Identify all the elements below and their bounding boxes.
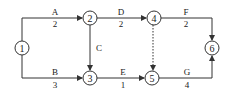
network-diagram: 1 2 3 4 5 6 A 2 B 3 C D 2 E 1 F 2 G 4 [0,0,232,95]
node-1-label: 1 [20,43,25,54]
node-4-label: 4 [152,13,157,24]
node-2-label: 2 [88,13,93,24]
activity-E-duration: 1 [121,80,126,90]
activity-D-name: D [118,7,125,17]
activity-F-name: F [183,7,188,17]
activity-A-duration: 2 [53,19,58,29]
activity-E-name: E [120,67,126,77]
node-6-label: 6 [210,43,215,54]
activity-F-duration: 2 [184,19,189,29]
activity-G-duration: 4 [185,80,190,90]
activity-G-name: G [184,67,191,77]
node-3-label: 3 [88,73,93,84]
activity-C-name: C [96,43,102,53]
activity-B-duration: 3 [53,80,58,90]
activity-B-name: B [52,67,58,77]
activity-D-duration: 2 [119,19,124,29]
node-5-label: 5 [150,73,155,84]
activity-A-name: A [52,7,59,17]
